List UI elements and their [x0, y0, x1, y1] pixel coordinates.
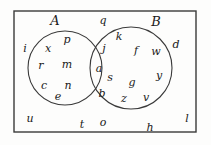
element-outside-t: t — [80, 119, 84, 130]
element-only-a-c: c — [41, 80, 47, 91]
set-label-B: B — [151, 15, 161, 28]
element-only-a-x: x — [45, 43, 51, 54]
element-outside-i: i — [23, 43, 27, 54]
element-outside-q: q — [99, 15, 106, 26]
element-outside-u: u — [26, 113, 33, 124]
element-only-b-f: f — [134, 45, 138, 56]
element-outside-d: d — [172, 39, 179, 50]
element-only-b-z: z — [121, 93, 127, 104]
element-only-b-k: k — [116, 31, 123, 42]
set-label-A: A — [50, 14, 59, 27]
element-only-b-y: y — [156, 70, 162, 81]
element-only-a-p: p — [63, 34, 70, 45]
element-only-a-n: n — [64, 80, 71, 91]
element-outside-h: h — [146, 122, 153, 133]
universal-set-rectangle — [14, 11, 196, 132]
element-intersection-a: a — [96, 63, 103, 74]
element-only-a-e: e — [55, 91, 62, 102]
element-intersection-j: j — [102, 43, 105, 54]
element-only-a-r: r — [38, 60, 43, 71]
element-outside-l: l — [185, 113, 189, 124]
element-intersection-b: b — [98, 88, 105, 99]
element-intersection-s: s — [107, 72, 113, 83]
element-only-b-g: g — [128, 77, 135, 88]
element-only-b-w: w — [151, 46, 160, 57]
element-only-b-v: v — [143, 92, 149, 103]
element-only-a-m: m — [62, 59, 72, 70]
venn-diagram-figure: AB pxrmcne jasb kfwgyzv qidutohl — [0, 0, 211, 145]
element-outside-o: o — [100, 117, 107, 128]
